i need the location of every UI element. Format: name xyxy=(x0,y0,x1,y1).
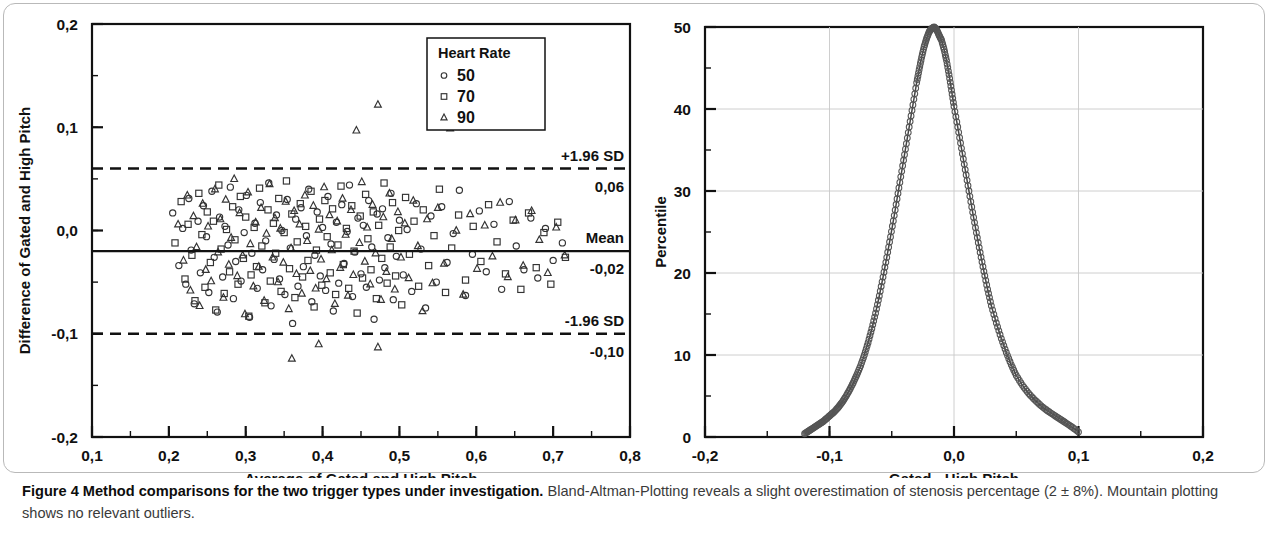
y-tick-label: 20 xyxy=(674,265,691,282)
reference-label-mean: Mean xyxy=(586,229,624,246)
legend: Heart Rate507090 xyxy=(427,38,545,130)
x-tick-label: 0,1 xyxy=(1068,447,1090,464)
x-tick-label: 0,2 xyxy=(1192,447,1214,464)
figure-container: 0,10,20,30,40,50,60,70,8-0,2-0,10,00,10,… xyxy=(0,0,1270,548)
reference-value-lower_loa: -0,10 xyxy=(590,343,624,360)
reference-value-upper_loa: 0,06 xyxy=(595,178,624,195)
x-axis-title: Average of Gated and High Pitch xyxy=(245,470,478,478)
x-tick-label: -0,2 xyxy=(692,447,719,464)
mountain-plot-chart: -0,2-0,10,00,10,201020304050Gated - High… xyxy=(648,0,1270,478)
y-tick-label: -0,2 xyxy=(51,429,78,446)
legend-label-50: 50 xyxy=(457,67,475,84)
reference-value-mean: -0,02 xyxy=(590,260,624,277)
x-tick-label: 0,2 xyxy=(158,447,180,464)
y-tick-label: -0,1 xyxy=(51,325,78,342)
x-tick-label: 0,0 xyxy=(943,447,965,464)
x-axis-title: Gated - High Pitch xyxy=(889,470,1019,478)
y-tick-label: 10 xyxy=(674,347,691,364)
y-tick-label: 0,2 xyxy=(56,16,78,33)
figure-caption: Figure 4 Method comparisons for the two … xyxy=(22,481,1250,524)
y-tick-labels: 01020304050 xyxy=(674,19,691,446)
x-tick-label: 0,7 xyxy=(542,447,564,464)
mountain-plot-panel: -0,2-0,10,00,10,201020304050Gated - High… xyxy=(648,0,1270,478)
legend-label-90: 90 xyxy=(457,109,475,126)
y-axis-title: Difference of Gated and High Pitch xyxy=(16,107,33,355)
y-tick-label: 30 xyxy=(674,183,691,200)
legend-label-70: 70 xyxy=(457,88,475,105)
x-tick-label: 0,3 xyxy=(235,447,257,464)
reference-label-lower_loa: -1.96 SD xyxy=(565,312,624,329)
y-tick-labels: -0,2-0,10,00,10,2 xyxy=(51,16,78,446)
reference-label-upper_loa: +1.96 SD xyxy=(561,147,624,164)
legend-title: Heart Rate xyxy=(438,45,511,61)
figure-caption-title: Figure 4 Method comparisons for the two … xyxy=(22,483,543,499)
plot-frame xyxy=(92,24,630,437)
x-tick-label: 0,6 xyxy=(466,447,488,464)
y-tick-label: 40 xyxy=(674,101,691,118)
x-tick-label: 0,8 xyxy=(619,447,641,464)
y-axis-title: Percentile xyxy=(652,196,669,268)
x-tick-labels: -0,2-0,10,00,10,2 xyxy=(692,447,1214,464)
y-tick-label: 50 xyxy=(674,19,691,36)
y-tick-label: 0,1 xyxy=(56,119,78,136)
bland-altman-chart: 0,10,20,30,40,50,60,70,8-0,2-0,10,00,10,… xyxy=(0,0,655,478)
x-tick-label: 0,1 xyxy=(81,447,103,464)
bland-altman-panel: 0,10,20,30,40,50,60,70,8-0,2-0,10,00,10,… xyxy=(0,0,655,478)
x-tick-label: -0,1 xyxy=(816,447,843,464)
x-tick-label: 0,5 xyxy=(389,447,411,464)
y-tick-label: 0,0 xyxy=(56,222,78,239)
x-tick-labels: 0,10,20,30,40,50,60,70,8 xyxy=(81,447,641,464)
x-tick-label: 0,4 xyxy=(312,447,334,464)
y-tick-label: 0 xyxy=(682,429,691,446)
